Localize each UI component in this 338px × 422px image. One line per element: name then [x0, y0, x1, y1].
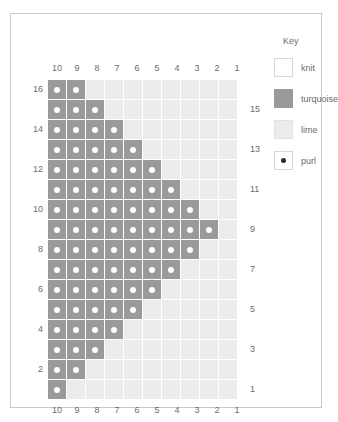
cell-purl-r6-c8[interactable] [86, 280, 105, 300]
cell-knit-r2-c7[interactable] [105, 360, 124, 380]
cell-knit-r3-c6[interactable] [124, 340, 143, 360]
cell-purl-r12-c10[interactable] [48, 160, 67, 180]
cell-purl-r12-c7[interactable] [105, 160, 124, 180]
cell-purl-r4-c7[interactable] [105, 320, 124, 340]
cell-purl-r12-c6[interactable] [124, 160, 143, 180]
cell-purl-r6-c5[interactable] [143, 280, 162, 300]
cell-purl-r5-c10[interactable] [48, 300, 67, 320]
cell-purl-r14-c10[interactable] [48, 120, 67, 140]
cell-purl-r2-c9[interactable] [67, 360, 86, 380]
cell-purl-r13-c10[interactable] [48, 140, 67, 160]
cell-purl-r14-c7[interactable] [105, 120, 124, 140]
cell-purl-r9-c7[interactable] [105, 220, 124, 240]
cell-purl-r15-c10[interactable] [48, 100, 67, 120]
cell-purl-r7-c8[interactable] [86, 260, 105, 280]
cell-knit-r13-c1[interactable] [219, 140, 238, 160]
cell-knit-r3-c2[interactable] [200, 340, 219, 360]
cell-knit-r2-c1[interactable] [219, 360, 238, 380]
cell-purl-r7-c6[interactable] [124, 260, 143, 280]
cell-knit-r13-c3[interactable] [181, 140, 200, 160]
cell-purl-r8-c4[interactable] [162, 240, 181, 260]
cell-purl-r11-c9[interactable] [67, 180, 86, 200]
cell-knit-r3-c3[interactable] [181, 340, 200, 360]
cell-purl-r2-c10[interactable] [48, 360, 67, 380]
cell-knit-r15-c6[interactable] [124, 100, 143, 120]
cell-purl-r7-c4[interactable] [162, 260, 181, 280]
cell-knit-r14-c4[interactable] [162, 120, 181, 140]
cell-knit-r5-c3[interactable] [181, 300, 200, 320]
cell-purl-r15-c8[interactable] [86, 100, 105, 120]
cell-purl-r13-c8[interactable] [86, 140, 105, 160]
cell-knit-r13-c4[interactable] [162, 140, 181, 160]
cell-knit-r16-c6[interactable] [124, 80, 143, 100]
cell-purl-r6-c10[interactable] [48, 280, 67, 300]
cell-purl-r16-c10[interactable] [48, 80, 67, 100]
cell-knit-r5-c5[interactable] [143, 300, 162, 320]
cell-purl-r10-c3[interactable] [181, 200, 200, 220]
cell-knit-r3-c4[interactable] [162, 340, 181, 360]
cell-knit-r2-c6[interactable] [124, 360, 143, 380]
cell-purl-r5-c7[interactable] [105, 300, 124, 320]
cell-knit-r16-c8[interactable] [86, 80, 105, 100]
cell-purl-r8-c10[interactable] [48, 240, 67, 260]
cell-purl-r15-c9[interactable] [67, 100, 86, 120]
cell-purl-r7-c5[interactable] [143, 260, 162, 280]
cell-purl-r5-c6[interactable] [124, 300, 143, 320]
cell-knit-r15-c5[interactable] [143, 100, 162, 120]
cell-knit-r12-c4[interactable] [162, 160, 181, 180]
cell-purl-r5-c8[interactable] [86, 300, 105, 320]
cell-purl-r8-c6[interactable] [124, 240, 143, 260]
cell-purl-r12-c5[interactable] [143, 160, 162, 180]
cell-purl-r9-c8[interactable] [86, 220, 105, 240]
cell-purl-r11-c6[interactable] [124, 180, 143, 200]
cell-purl-r9-c10[interactable] [48, 220, 67, 240]
cell-knit-r2-c2[interactable] [200, 360, 219, 380]
cell-knit-r1-c2[interactable] [200, 380, 219, 400]
cell-purl-r8-c8[interactable] [86, 240, 105, 260]
cell-knit-r5-c2[interactable] [200, 300, 219, 320]
cell-purl-r3-c8[interactable] [86, 340, 105, 360]
cell-knit-r4-c1[interactable] [219, 320, 238, 340]
cell-knit-r16-c2[interactable] [200, 80, 219, 100]
cell-purl-r4-c9[interactable] [67, 320, 86, 340]
cell-knit-r1-c3[interactable] [181, 380, 200, 400]
cell-knit-r15-c7[interactable] [105, 100, 124, 120]
cell-knit-r12-c3[interactable] [181, 160, 200, 180]
cell-purl-r10-c6[interactable] [124, 200, 143, 220]
cell-knit-r6-c3[interactable] [181, 280, 200, 300]
cell-purl-r10-c8[interactable] [86, 200, 105, 220]
cell-purl-r14-c8[interactable] [86, 120, 105, 140]
cell-knit-r2-c8[interactable] [86, 360, 105, 380]
cell-purl-r9-c6[interactable] [124, 220, 143, 240]
cell-knit-r14-c1[interactable] [219, 120, 238, 140]
cell-purl-r9-c3[interactable] [181, 220, 200, 240]
cell-purl-r3-c9[interactable] [67, 340, 86, 360]
cell-knit-r9-c1[interactable] [219, 220, 238, 240]
cell-knit-r14-c6[interactable] [124, 120, 143, 140]
cell-knit-r14-c2[interactable] [200, 120, 219, 140]
cell-purl-r8-c9[interactable] [67, 240, 86, 260]
cell-purl-r9-c2[interactable] [200, 220, 219, 240]
cell-knit-r8-c2[interactable] [200, 240, 219, 260]
cell-purl-r7-c9[interactable] [67, 260, 86, 280]
cell-knit-r1-c1[interactable] [219, 380, 238, 400]
cell-purl-r11-c10[interactable] [48, 180, 67, 200]
cell-purl-r10-c7[interactable] [105, 200, 124, 220]
cell-knit-r3-c7[interactable] [105, 340, 124, 360]
cell-knit-r6-c4[interactable] [162, 280, 181, 300]
cell-knit-r15-c1[interactable] [219, 100, 238, 120]
cell-purl-r8-c3[interactable] [181, 240, 200, 260]
cell-knit-r14-c5[interactable] [143, 120, 162, 140]
cell-purl-r10-c4[interactable] [162, 200, 181, 220]
cell-knit-r7-c2[interactable] [200, 260, 219, 280]
cell-knit-r3-c5[interactable] [143, 340, 162, 360]
cell-purl-r11-c5[interactable] [143, 180, 162, 200]
cell-knit-r4-c5[interactable] [143, 320, 162, 340]
cell-purl-r13-c6[interactable] [124, 140, 143, 160]
cell-knit-r8-c1[interactable] [219, 240, 238, 260]
cell-knit-r4-c2[interactable] [200, 320, 219, 340]
cell-knit-r12-c1[interactable] [219, 160, 238, 180]
cell-knit-r16-c4[interactable] [162, 80, 181, 100]
cell-knit-r16-c3[interactable] [181, 80, 200, 100]
cell-purl-r11-c7[interactable] [105, 180, 124, 200]
